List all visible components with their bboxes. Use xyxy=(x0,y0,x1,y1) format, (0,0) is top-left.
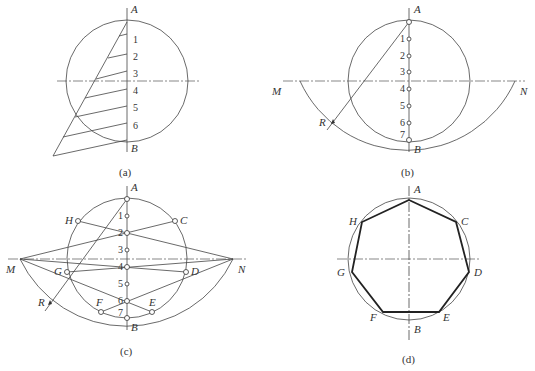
division-7: 7 xyxy=(118,307,123,318)
point-1 xyxy=(407,37,411,41)
label-M: M xyxy=(5,263,16,275)
division-line xyxy=(96,71,127,79)
division-4: 4 xyxy=(118,261,123,272)
division-1: 1 xyxy=(400,33,405,44)
radius-line-R xyxy=(327,22,409,130)
point-F xyxy=(99,310,104,315)
heptagon-construction-diagram: A B 1 2 3 4 5 6 (a) A B M N R 1 2 3 4 5 … xyxy=(0,0,535,371)
label-C: C xyxy=(180,214,188,226)
label-N: N xyxy=(519,85,528,97)
label-E: E xyxy=(148,296,156,308)
division-4: 4 xyxy=(400,83,405,94)
division-7: 7 xyxy=(400,129,405,140)
label-B: B xyxy=(131,142,138,154)
radius-line-R xyxy=(45,199,127,311)
label-A: A xyxy=(413,183,421,195)
label-F: F xyxy=(95,296,103,308)
heptagon xyxy=(352,200,469,312)
point-E xyxy=(150,310,155,315)
label-D: D xyxy=(190,265,199,277)
division-1: 1 xyxy=(118,210,123,221)
label-R: R xyxy=(37,296,45,308)
point-D xyxy=(184,270,189,275)
division-6: 6 xyxy=(400,117,405,128)
caption-c: (c) xyxy=(120,345,133,358)
division-3: 3 xyxy=(118,244,123,255)
closing-line xyxy=(53,140,127,156)
division-2: 2 xyxy=(118,227,123,238)
point-5 xyxy=(407,104,411,108)
label-A: A xyxy=(130,3,138,15)
division-line xyxy=(85,89,127,98)
division-4: 4 xyxy=(133,85,138,96)
division-line xyxy=(63,123,127,137)
point-6 xyxy=(407,121,411,125)
division-5: 5 xyxy=(400,100,405,111)
construction-line xyxy=(67,259,233,272)
label-G: G xyxy=(54,265,62,277)
label-N: N xyxy=(237,263,246,275)
label-R: R xyxy=(318,116,326,128)
division-6: 6 xyxy=(118,295,123,306)
construction-line xyxy=(20,259,186,272)
panel-a: A B 1 2 3 4 5 6 (a) xyxy=(53,3,200,179)
division-2: 2 xyxy=(133,51,138,62)
point-A xyxy=(407,20,412,25)
label-G: G xyxy=(337,266,345,278)
point-2 xyxy=(125,231,130,236)
auxiliary-ray xyxy=(53,22,127,156)
point-6 xyxy=(125,299,130,304)
panel-d: A C D E B F G H (d) xyxy=(337,183,482,366)
caption-b: (b) xyxy=(401,166,414,179)
point-2 xyxy=(407,54,411,58)
point-3 xyxy=(125,248,129,252)
point-3 xyxy=(407,70,411,74)
point-B xyxy=(407,138,412,143)
caption-d: (d) xyxy=(402,353,415,366)
construction-line xyxy=(78,221,233,259)
point-4 xyxy=(407,87,411,91)
division-3: 3 xyxy=(133,68,138,79)
label-H: H xyxy=(348,215,358,227)
division-2: 2 xyxy=(400,50,405,61)
division-5: 5 xyxy=(118,278,123,289)
label-B: B xyxy=(414,143,421,155)
point-5 xyxy=(125,282,129,286)
caption-a: (a) xyxy=(119,166,132,179)
point-G xyxy=(65,270,70,275)
division-line xyxy=(75,106,127,117)
point-B xyxy=(125,316,130,321)
label-C: C xyxy=(461,215,469,227)
label-B: B xyxy=(414,323,421,335)
label-A: A xyxy=(130,181,138,193)
panel-b: A B M N R 1 2 3 4 5 6 7 (b) xyxy=(271,3,528,179)
division-1: 1 xyxy=(133,34,138,45)
point-4 xyxy=(125,265,130,270)
construction-line xyxy=(20,221,175,259)
division-3: 3 xyxy=(400,66,405,77)
label-H: H xyxy=(64,214,74,226)
label-D: D xyxy=(473,266,482,278)
point-H xyxy=(76,219,81,224)
label-F: F xyxy=(369,311,377,323)
division-6: 6 xyxy=(133,120,138,131)
point-1 xyxy=(125,214,129,218)
division-line xyxy=(108,54,127,58)
label-B: B xyxy=(131,321,138,333)
label-E: E xyxy=(442,311,450,323)
label-M: M xyxy=(271,85,282,97)
label-A: A xyxy=(413,3,421,15)
panel-c: A B M N R H C G D F E 1 2 3 4 5 6 7 (c) xyxy=(5,181,247,358)
division-5: 5 xyxy=(133,102,138,113)
point-A xyxy=(125,197,130,202)
point-C xyxy=(173,219,178,224)
